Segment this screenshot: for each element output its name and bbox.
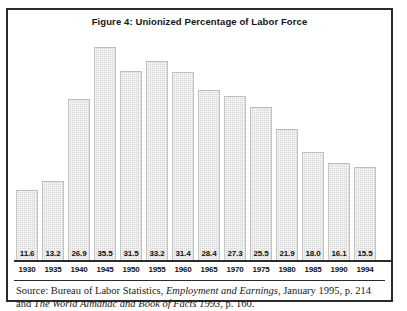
figure-frame: Figure 4: Unionized Percentage of Labor …: [6, 8, 393, 302]
bar-value-label: 13.2: [43, 249, 63, 258]
bar: 31.5: [120, 71, 142, 260]
bar-slot: 28.4: [198, 32, 220, 260]
bar: 21.9: [276, 129, 298, 260]
x-axis-tick-label: 1930: [16, 265, 38, 277]
bar: 16.1: [328, 163, 350, 260]
x-axis-tick-label: 1970: [224, 265, 246, 277]
bar-value-label: 35.5: [95, 249, 115, 258]
x-axis-tick-label: 1990: [328, 265, 350, 277]
source-prefix: Source: Bureau of Labor Statistics,: [16, 285, 166, 296]
bar-value-label: 21.9: [277, 249, 297, 258]
bar-value-label: 11.6: [17, 249, 37, 258]
source-italic-publication-1: Employment and Earnings: [166, 285, 278, 296]
bar-slot: 31.5: [120, 32, 142, 260]
bar-value-label: 18.0: [303, 249, 323, 258]
bar: 18.0: [302, 152, 324, 260]
bar: 35.5: [94, 47, 116, 260]
x-axis-tick-labels: 1930193519401945195019551960196519701975…: [16, 265, 387, 277]
x-axis-tick-label: 1940: [68, 265, 90, 277]
bar-slot: 27.3: [224, 32, 246, 260]
x-axis-tick-label: 1955: [146, 265, 168, 277]
bar-chart-plot-area: 11.613.226.935.531.533.231.428.427.325.5…: [16, 32, 387, 262]
bar-slot: 15.5: [354, 32, 376, 260]
x-axis-line: [14, 260, 392, 262]
x-axis-tick-label: 1965: [198, 265, 220, 277]
bar: 33.2: [146, 61, 168, 260]
source-divider: [14, 280, 385, 281]
bar: 28.4: [198, 90, 220, 260]
bar-value-label: 25.5: [251, 249, 271, 258]
x-axis-tick-label: 1935: [42, 265, 64, 277]
x-axis-tick-label: 1980: [276, 265, 298, 277]
bar: 15.5: [354, 167, 376, 260]
figure-title: Figure 4: Unionized Percentage of Labor …: [8, 16, 391, 27]
x-axis-tick-label: 1950: [120, 265, 142, 277]
bar-slot: 21.9: [276, 32, 298, 260]
source-italic-publication-2: The World Almanac and Book of Facts 1993: [34, 298, 220, 309]
bar-value-label: 31.4: [173, 249, 193, 258]
x-axis-tick-label: 1994: [354, 265, 376, 277]
bar-slot: 25.5: [250, 32, 272, 260]
bar-value-label: 28.4: [199, 249, 219, 258]
source-note: Source: Bureau of Labor Statistics, Empl…: [16, 284, 384, 310]
bar-slot: 16.1: [328, 32, 350, 260]
bar-slot: 18.0: [302, 32, 324, 260]
bar-slot: 26.9: [68, 32, 90, 260]
bar-value-label: 27.3: [225, 249, 245, 258]
bar: 31.4: [172, 72, 194, 260]
bar-series: 11.613.226.935.531.533.231.428.427.325.5…: [16, 32, 387, 260]
x-axis-tick-label: 1985: [302, 265, 324, 277]
bar-slot: 31.4: [172, 32, 194, 260]
bar: 13.2: [42, 181, 64, 260]
bar-value-label: 26.9: [69, 249, 89, 258]
bar-slot: 35.5: [94, 32, 116, 260]
bar: 11.6: [16, 190, 38, 260]
x-axis-tick-label: 1975: [250, 265, 272, 277]
bar-value-label: 15.5: [355, 249, 375, 258]
bar-slot: 33.2: [146, 32, 168, 260]
bar: 27.3: [224, 96, 246, 260]
bar-value-label: 31.5: [121, 249, 141, 258]
bar-slot: 11.6: [16, 32, 38, 260]
x-axis-tick-label: 1945: [94, 265, 116, 277]
bar: 25.5: [250, 107, 272, 260]
bar-slot: 13.2: [42, 32, 64, 260]
bar: 26.9: [68, 99, 90, 260]
source-suffix: , p. 160.: [220, 298, 254, 309]
x-axis-tick-label: 1960: [172, 265, 194, 277]
bar-value-label: 33.2: [147, 249, 167, 258]
bar-value-label: 16.1: [329, 249, 349, 258]
